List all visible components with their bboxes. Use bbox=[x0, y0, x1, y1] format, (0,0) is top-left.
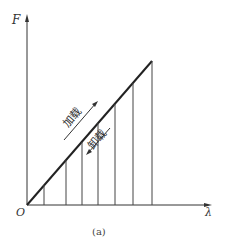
y-axis-arrow-icon bbox=[25, 14, 29, 22]
origin-label: O bbox=[16, 206, 25, 219]
figure-caption: (a) bbox=[92, 226, 106, 237]
y-axis-label: F bbox=[11, 13, 21, 27]
unloading-label: 卸载 bbox=[85, 126, 110, 152]
force-displacement-diagram: F λ O 加载 卸载 bbox=[0, 0, 226, 251]
x-axis-label: λ bbox=[204, 206, 212, 219]
loading-label: 加载 bbox=[60, 105, 84, 130]
